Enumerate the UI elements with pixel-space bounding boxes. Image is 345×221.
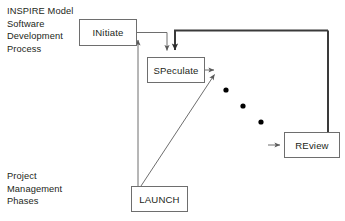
diagram-canvas: INSPIRE Model Software Development Proce… [0,0,345,221]
connector-initiate-to-speculate [137,33,167,51]
node-speculate[interactable]: SPeculate [147,57,205,83]
node-launch[interactable]: LAUNCH [131,186,188,212]
ellipsis-dot [258,119,263,124]
project-management-phases-caption: Project Management Phases [7,170,62,208]
connector-launch-to-iteration [141,75,215,187]
ellipsis-dot [240,103,245,108]
node-initiate[interactable]: INitiate [79,19,137,46]
connector-speculate-feedback-loop [175,31,328,51]
node-review[interactable]: REview [284,132,340,158]
inspire-model-caption: INSPIRE Model Software Development Proce… [7,5,73,55]
ellipsis-dot [223,87,228,92]
